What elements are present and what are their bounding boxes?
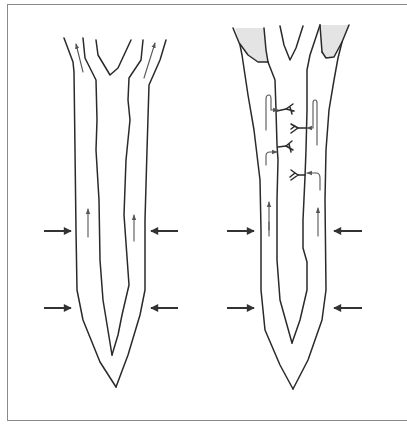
branch-connector [290, 170, 305, 180]
right-panel [227, 25, 362, 389]
outer-right-wall [293, 25, 349, 389]
outer-left-wall [233, 28, 293, 389]
branch-connector [291, 124, 306, 133]
branch-connector [277, 104, 294, 114]
inner-left-wall [268, 62, 292, 343]
inner-left-wall [83, 38, 112, 355]
flow-arrow-icon [144, 43, 155, 78]
flow-arrow-icon [266, 152, 277, 165]
inner-right-wall [292, 25, 320, 343]
central-notch [280, 26, 303, 60]
flow-arrow-icon [307, 173, 320, 190]
left-panel [44, 38, 178, 387]
central-notch [96, 40, 131, 75]
branch-connector [278, 141, 293, 152]
shaded-region-right [321, 25, 349, 58]
flow-arrow-icon [76, 44, 83, 72]
flow-arrow-icon [307, 100, 317, 145]
inner-right-wall [112, 40, 143, 355]
